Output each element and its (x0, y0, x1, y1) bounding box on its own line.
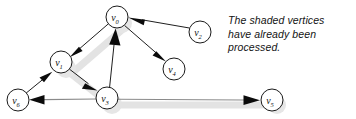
vertex-v2[interactable]: v2 (189, 21, 211, 43)
figure-caption: The shaded vertices have already been pr… (228, 14, 352, 55)
edge-v3-v6 (29, 95, 96, 104)
graph-figure: v0 v1 v2 v3 (0, 0, 356, 119)
edge-v0-v1 (70, 24, 109, 58)
arrow-head-v0-v4 (153, 51, 166, 61)
arrow-head-v3-v6 (29, 95, 44, 104)
vertex-v0[interactable]: v0 (106, 6, 128, 28)
vertex-v6[interactable]: v6 (7, 89, 29, 111)
edge-v2-v0 (128, 18, 189, 29)
caption-line-1: The shaded vertices (228, 14, 352, 28)
vertex-v1[interactable]: v1 (50, 51, 72, 73)
vertex-v5[interactable]: v5 (261, 89, 283, 111)
vertex-v4[interactable]: v4 (163, 58, 185, 80)
vertex-v3[interactable]: v3 (96, 87, 118, 109)
edge-v6-v1 (26, 72, 52, 94)
edge-v0-v4 (125, 26, 166, 62)
caption-line-3: processed. (228, 41, 352, 55)
caption-line-2: have already been (228, 28, 352, 42)
